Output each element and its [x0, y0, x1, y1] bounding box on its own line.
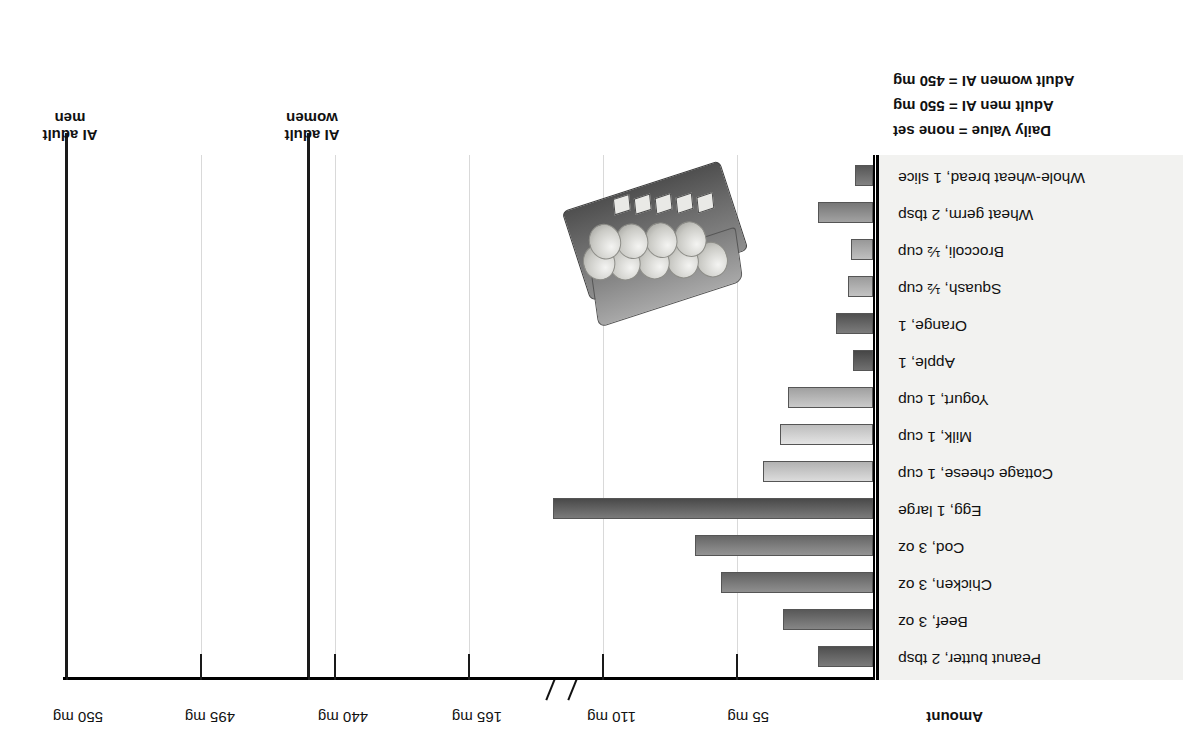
bar-chicken: [721, 572, 873, 593]
bar-broccoli: [851, 239, 873, 260]
legend-women-ai: Adult women AI = 450 mg: [893, 69, 1183, 94]
legend-block: Daily Value = none set Adult men AI = 55…: [883, 69, 1183, 144]
axis-label-440mg: 440 mg: [318, 709, 368, 726]
category-label-column: Peanut butter, 2 tbsp Beef, 3 oz Chicken…: [876, 155, 1183, 680]
axis-label-550mg: 550 mg: [53, 709, 103, 726]
category-label-apple: Apple, 1: [888, 346, 1183, 380]
bar-beef: [783, 609, 873, 630]
reference-line-ai-women: [307, 133, 310, 677]
category-label-squash: Squash, ½ cup: [888, 272, 1183, 306]
ai-women-caption: AI adult women: [252, 110, 372, 144]
bar-wheat-germ: [818, 202, 873, 223]
category-label-yogurt: Yogurt, 1 cup: [888, 383, 1183, 417]
axis-label-495mg: 495 mg: [185, 709, 235, 726]
legend-men-ai: Adult men AI = 550 mg: [893, 94, 1183, 119]
tick-55mg: [736, 654, 738, 680]
category-label-milk: Milk, 1 cup: [888, 420, 1183, 454]
category-label-cottage-cheese: Cottage cheese, 1 cup: [888, 457, 1183, 491]
bar-cottage-cheese: [763, 461, 873, 482]
axis-label-110mg: 110 mg: [587, 709, 636, 726]
bar-egg: [553, 498, 873, 519]
axis-label-55mg: 55 mg: [727, 709, 769, 726]
rotated-figure-wrapper: Amount 55 mg 110 mg 165 mg 440 mg 495 mg…: [0, 0, 1183, 744]
choline-food-chart: Amount 55 mg 110 mg 165 mg 440 mg 495 mg…: [0, 0, 1183, 744]
category-label-wheat-germ: Wheat germ, 2 tbsp: [888, 198, 1183, 232]
legend-daily-value: Daily Value = none set: [893, 119, 1183, 144]
category-label-cod: Cod, 3 oz: [888, 531, 1183, 565]
category-label-whole-wheat-bread: Whole-wheat bread, 1 slice: [888, 161, 1183, 195]
gridline-440mg: [335, 155, 336, 677]
category-label-broccoli: Broccoli, ½ cup: [888, 235, 1183, 269]
gridline-165mg: [469, 155, 470, 677]
reference-line-ai-men: [65, 133, 68, 677]
bar-cod: [695, 535, 873, 556]
category-label-orange: Orange, 1: [888, 309, 1183, 343]
ai-men-caption: AI adult men: [10, 110, 130, 144]
ai-women-caption-line1: AI adult: [252, 127, 372, 144]
tick-165mg: [468, 654, 470, 680]
tick-110mg: [602, 654, 604, 680]
category-label-egg: Egg, 1 large: [888, 494, 1183, 528]
bar-yogurt: [788, 387, 873, 408]
gridline-495mg: [201, 155, 202, 677]
plot-area: [63, 155, 875, 680]
ai-women-caption-line2: women: [252, 110, 372, 127]
bar-squash: [848, 276, 873, 297]
bar-whole-wheat-bread: [855, 165, 873, 186]
category-label-peanut-butter: Peanut butter, 2 tbsp: [888, 642, 1183, 676]
bar-apple: [853, 350, 873, 371]
axis-label-amount: Amount: [926, 709, 983, 726]
ai-men-caption-line1: AI adult: [10, 127, 130, 144]
tick-495mg: [200, 654, 202, 680]
bar-orange: [836, 313, 873, 334]
bar-peanut-butter: [818, 646, 873, 667]
bar-milk: [780, 424, 873, 445]
axis-label-165mg: 165 mg: [452, 709, 502, 726]
category-label-beef: Beef, 3 oz: [888, 605, 1183, 639]
tick-440mg: [334, 654, 336, 680]
category-label-chicken: Chicken, 3 oz: [888, 568, 1183, 602]
ai-men-caption-line2: men: [10, 110, 130, 127]
